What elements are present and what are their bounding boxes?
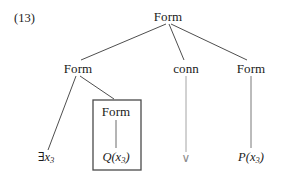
syntax-tree-figure: (13) Form Form conn Form Form ∃x3 Q(x3) … <box>0 0 288 179</box>
p-predicate-symbol: P( <box>238 150 250 164</box>
p-close-paren: ) <box>260 150 264 164</box>
tree-node-right-form: Form <box>237 62 266 75</box>
edge-left-form-to-boxed-form <box>80 76 114 99</box>
exists-quantifier-glyph: ∃ <box>38 150 45 164</box>
tree-leaf-p-x3: P(x3) <box>238 151 264 164</box>
tree-leaf-q-x3: Q(x3) <box>102 151 129 164</box>
edge-root-to-right-form <box>171 24 247 60</box>
edge-root-to-left-form <box>81 24 166 60</box>
tree-leaf-disjunction: ∨ <box>182 152 191 164</box>
tree-node-boxed-form: Form <box>102 105 131 118</box>
exists-variable-subscript: 3 <box>50 155 54 165</box>
tree-node-root-form: Form <box>154 10 183 23</box>
edge-left-form-to-exists <box>48 76 76 150</box>
q-predicate-symbol: Q( <box>102 150 115 164</box>
tree-node-left-form: Form <box>64 62 93 75</box>
tree-leaf-exists-x3: ∃x3 <box>38 151 55 164</box>
tree-node-conn: conn <box>173 62 199 75</box>
q-close-paren: ) <box>125 150 129 164</box>
